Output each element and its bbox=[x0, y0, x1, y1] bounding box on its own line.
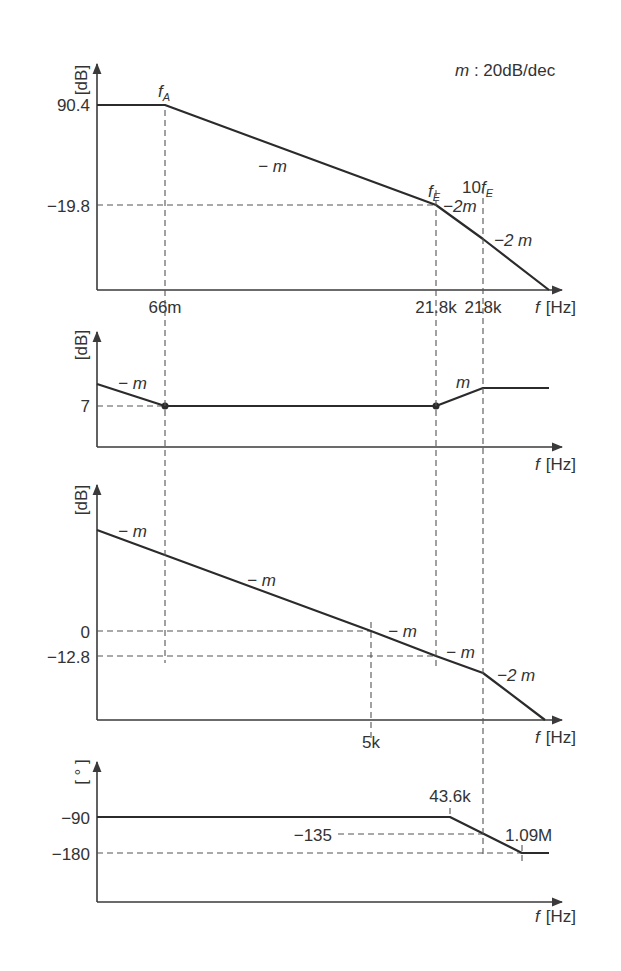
slope-note: m : 20dB/dec bbox=[455, 61, 556, 80]
slope-label: − m bbox=[258, 157, 287, 176]
y-tick-neg19-8: −19.8 bbox=[47, 197, 90, 216]
y-unit: [ ° ] bbox=[72, 759, 91, 785]
slope-label: m bbox=[456, 373, 470, 392]
slope-label: − m bbox=[388, 622, 417, 641]
panel-open-loop-gain: [dB] 90.4 −19.8 fA fE 10fE − m −2m −2 m … bbox=[47, 64, 576, 317]
fa-label: fA bbox=[158, 82, 170, 103]
slope-label: − m bbox=[247, 571, 276, 590]
y-tick-0: 0 bbox=[81, 623, 90, 642]
loop-gain-curve bbox=[97, 530, 545, 720]
slope-label: − m bbox=[118, 374, 147, 393]
panel-loop-gain: [dB] 0 −12.8 − m − m − m − m −2 m 5k f[H… bbox=[47, 485, 576, 752]
slope-label: − m bbox=[446, 643, 475, 662]
x-unit: f[Hz] bbox=[535, 907, 576, 926]
panel-phase: [ ° ] −90 −135 −180 43.6k 1.09M f[Hz] bbox=[52, 759, 576, 926]
slope-label: −2m bbox=[443, 197, 477, 216]
bode-diagram: m : 20dB/dec [dB] 90.4 −19.8 fA fE 10fE … bbox=[0, 0, 621, 971]
x-tick-5k: 5k bbox=[362, 733, 380, 752]
y-tick-neg90: −90 bbox=[61, 809, 90, 828]
x-tick-43-6k: 43.6k bbox=[429, 787, 471, 806]
panel-feedback: [dB] 7 − m m f[Hz] bbox=[72, 330, 576, 474]
slope-label: − m bbox=[118, 522, 147, 541]
slope-label: −2 m bbox=[497, 666, 535, 685]
x-unit: f[Hz] bbox=[535, 728, 576, 747]
x-tick-1-09M: 1.09M bbox=[505, 826, 552, 845]
x-unit: f[Hz] bbox=[535, 455, 576, 474]
slope-label: −2 m bbox=[494, 231, 532, 250]
y-unit: [dB] bbox=[72, 65, 91, 95]
y-tick-neg135: −135 bbox=[294, 826, 332, 845]
y-tick-neg12-8: −12.8 bbox=[47, 648, 90, 667]
y-tick-90-4: 90.4 bbox=[57, 96, 90, 115]
tenfe-label: 10fE bbox=[462, 178, 494, 199]
x-unit: f[Hz] bbox=[535, 298, 576, 317]
y-tick-7: 7 bbox=[81, 397, 90, 416]
y-tick-neg180: −180 bbox=[52, 845, 90, 864]
fe-label: fE bbox=[428, 182, 441, 203]
y-unit: [dB] bbox=[72, 330, 91, 360]
y-unit: [dB] bbox=[72, 485, 91, 515]
